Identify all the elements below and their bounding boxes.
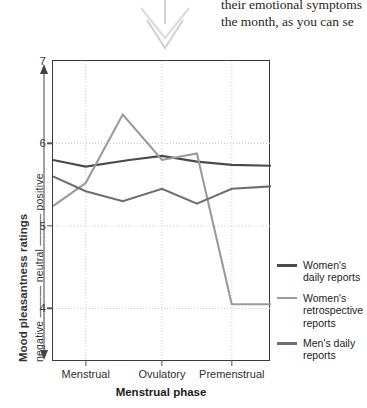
x-axis-tick-mark (85, 360, 86, 366)
legend-color-swatch (277, 264, 297, 267)
legend-color-swatch (277, 342, 297, 345)
y-axis-title: Mood pleasantness ratings (17, 214, 29, 362)
y-axis-tick-mark (47, 225, 53, 226)
legend-color-swatch (277, 297, 297, 300)
x-axis-tick-label: Menstrual (62, 368, 110, 380)
y-axis-tick-label: 7 (40, 55, 53, 67)
x-axis-tick-mark (231, 360, 232, 366)
y-axis-tick-mark (47, 308, 53, 309)
y-axis-label-group: Mood pleasantness ratings negative ——— n… (6, 62, 22, 362)
double-chevron-down-icon (133, 0, 197, 56)
legend-item-label: Women's daily reports (303, 259, 367, 284)
body-text-line-2: the month, as you can se (221, 13, 367, 30)
x-axis-tick-label: Ovulatory (138, 368, 185, 380)
legend-item: Men's daily reports (277, 337, 367, 362)
body-text-line-1: their emotional symptoms (221, 0, 367, 13)
legend-item-label: Men's daily reports (303, 337, 367, 362)
x-axis-title: Menstrual phase (52, 386, 270, 398)
y-axis-direction-arrow (36, 62, 52, 362)
legend-item: Women's daily reports (277, 259, 367, 284)
chart-legend: Women's daily reportsWomen's retrospecti… (277, 259, 367, 370)
surrounding-body-text: their emotional symptoms the month, as y… (221, 0, 367, 30)
x-axis-tick-label: Premenstrual (199, 368, 264, 380)
plot-area: 7654 MenstrualOvulatoryPremenstrual (52, 60, 270, 361)
legend-item: Women's retrospective reports (277, 292, 367, 329)
chart-figure: their emotional symptoms the month, as y… (0, 0, 367, 408)
legend-item-label: Women's retrospective reports (303, 292, 367, 329)
x-axis-tick-mark (161, 360, 162, 366)
y-axis-tick-mark (47, 143, 53, 144)
series-line (53, 115, 271, 305)
chart-canvas (53, 61, 271, 362)
